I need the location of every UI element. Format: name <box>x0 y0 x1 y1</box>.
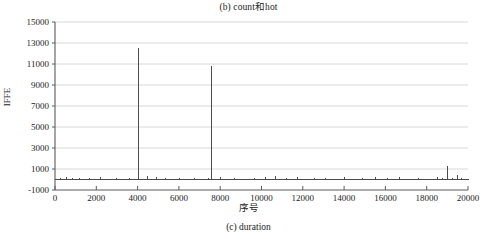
figure-caption: (c) duration <box>0 221 497 233</box>
y-tick-label: 11000 <box>27 59 50 69</box>
y-tick-label: 15000 <box>27 17 50 27</box>
x-tick-group: 0200040006000800010000120001400016000180… <box>53 186 480 203</box>
gridlines-group <box>55 22 468 169</box>
data-series-path <box>55 48 468 179</box>
y-tick-label: 9000 <box>31 80 50 90</box>
y-tick-label: 3000 <box>31 143 50 153</box>
y-tick-group: -100010003000500070009000110001300015000 <box>27 17 56 195</box>
y-tick-label: 7000 <box>31 101 50 111</box>
y-tick-label: 13000 <box>27 38 50 48</box>
figure-container: (b) count和hot IFFE -10001000300050007000… <box>0 0 497 239</box>
x-axis-label: 序号 <box>0 202 497 214</box>
y-tick-label: 5000 <box>31 122 50 132</box>
data-series-group <box>55 48 468 179</box>
y-tick-label: 1000 <box>31 164 50 174</box>
y-tick-label: -1000 <box>28 185 49 195</box>
